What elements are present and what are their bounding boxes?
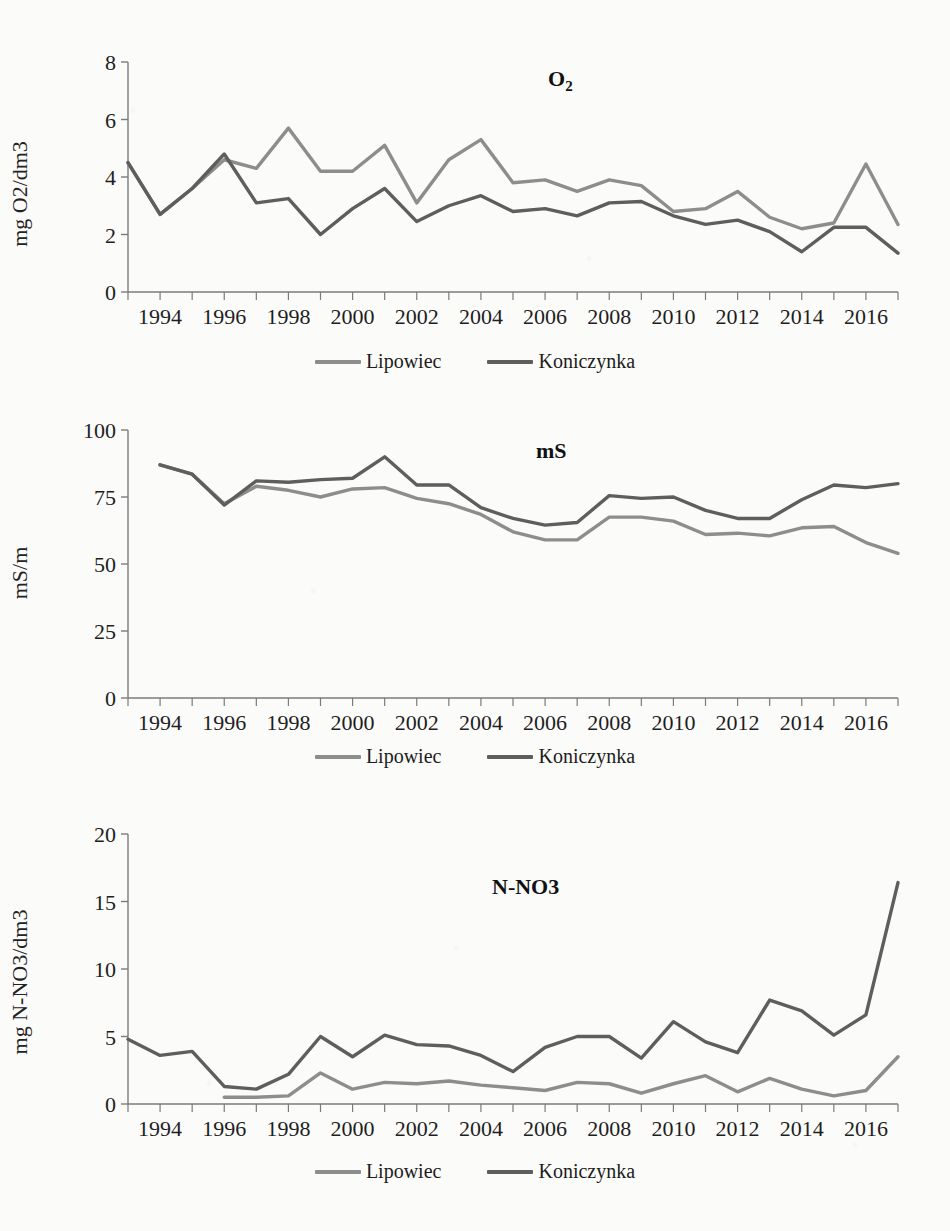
x-tick-label: 1994	[138, 1116, 182, 1141]
x-tick-label: 2010	[651, 710, 695, 735]
y-tick-label: 20	[94, 822, 116, 847]
x-tick-label: 2010	[651, 304, 695, 329]
legend-swatch-lipowiec	[315, 360, 361, 364]
y-tick-label: 6	[105, 108, 116, 133]
chart-panel-o2: mg O2/dm3 O2 024681994199619982000200220…	[0, 44, 950, 394]
x-tick-label: 2012	[716, 710, 760, 735]
x-tick-label: 2016	[844, 710, 888, 735]
legend-label-koniczynka: Koniczynka	[538, 745, 635, 768]
chart-panel-n-no3: mg N-NO3/dm3 N-NO3 051015201994199619982…	[0, 812, 950, 1212]
legend-item-lipowiec-n-no3: Lipowiec	[315, 1160, 442, 1183]
plot-area-o2: mg O2/dm3 O2 024681994199619982000200220…	[0, 44, 950, 344]
legend-label-koniczynka: Koniczynka	[538, 350, 635, 373]
chart-title-ms: mS	[536, 438, 567, 464]
x-tick-label: 1996	[202, 1116, 246, 1141]
plot-area-ms: mS/m mS 02550751001994199619982000200220…	[0, 408, 950, 738]
y-axis-label-text-ms: mS/m	[7, 547, 33, 600]
x-tick-label: 2014	[780, 1116, 824, 1141]
y-tick-label: 0	[105, 686, 116, 711]
x-tick-label: 2004	[459, 304, 503, 329]
chart-title-n-no3: N-NO3	[492, 874, 559, 900]
legend-item-koniczynka-o2: Koniczynka	[487, 350, 635, 373]
x-tick-label: 1998	[266, 304, 310, 329]
legend-label-koniczynka: Koniczynka	[538, 1160, 635, 1183]
series-line-koniczynka	[128, 154, 898, 253]
legend-swatch-koniczynka	[487, 360, 533, 364]
x-tick-label: 1998	[266, 1116, 310, 1141]
cut-off-figure-title	[0, 0, 950, 3]
legend-swatch-koniczynka	[487, 755, 533, 759]
y-tick-label: 0	[105, 280, 116, 305]
x-tick-label: 1994	[138, 710, 182, 735]
series-line-lipowiec	[128, 128, 898, 229]
x-tick-label: 1998	[266, 710, 310, 735]
y-tick-label: 100	[83, 418, 116, 443]
x-tick-label: 1996	[202, 304, 246, 329]
x-tick-label: 2000	[331, 1116, 375, 1141]
legend-label-lipowiec: Lipowiec	[366, 350, 442, 373]
x-tick-label: 2006	[523, 1116, 567, 1141]
x-tick-label: 1996	[202, 710, 246, 735]
y-axis-label-text-n-no3: mg N-NO3/dm3	[7, 910, 33, 1055]
chart-svg-n-no3: 0510152019941996199820002002200420062008…	[0, 812, 950, 1152]
chart-svg-o2: 0246819941996199820002002200420062008201…	[0, 44, 950, 344]
x-tick-label: 2014	[780, 710, 824, 735]
series-line-lipowiec	[224, 1057, 898, 1098]
x-tick-label: 2002	[395, 304, 439, 329]
chart-panel-ms: mS/m mS 02550751001994199619982000200220…	[0, 408, 950, 793]
x-tick-label: 2008	[587, 710, 631, 735]
y-axis-label-n-no3: mg N-NO3/dm3	[0, 812, 40, 1152]
x-tick-label: 2000	[331, 304, 375, 329]
chart-svg-ms: 0255075100199419961998200020022004200620…	[0, 408, 950, 738]
x-tick-label: 2016	[844, 1116, 888, 1141]
series-line-koniczynka	[128, 883, 898, 1090]
x-tick-label: 2008	[587, 304, 631, 329]
series-line-koniczynka	[160, 457, 898, 525]
y-tick-label: 10	[94, 957, 116, 982]
y-tick-label: 2	[105, 223, 116, 248]
y-tick-label: 8	[105, 50, 116, 75]
y-axis-label-text-o2: mg O2/dm3	[7, 141, 33, 247]
y-tick-label: 5	[105, 1025, 116, 1050]
x-tick-label: 2012	[716, 1116, 760, 1141]
x-tick-label: 2014	[780, 304, 824, 329]
legend-swatch-koniczynka	[487, 1170, 533, 1174]
x-tick-label: 2000	[331, 710, 375, 735]
legend-label-lipowiec: Lipowiec	[366, 745, 442, 768]
y-tick-label: 0	[105, 1092, 116, 1117]
y-tick-label: 25	[94, 619, 116, 644]
y-tick-label: 15	[94, 890, 116, 915]
y-tick-label: 75	[94, 485, 116, 510]
x-tick-label: 2004	[459, 710, 503, 735]
x-tick-label: 2006	[523, 304, 567, 329]
legend-o2: Lipowiec Koniczynka	[0, 350, 950, 373]
figure-page: mg O2/dm3 O2 024681994199619982000200220…	[0, 0, 950, 1231]
x-tick-label: 2012	[716, 304, 760, 329]
legend-item-koniczynka-n-no3: Koniczynka	[487, 1160, 635, 1183]
x-tick-label: 2010	[651, 1116, 695, 1141]
legend-item-lipowiec-ms: Lipowiec	[315, 745, 442, 768]
y-tick-label: 50	[94, 552, 116, 577]
plot-area-n-no3: mg N-NO3/dm3 N-NO3 051015201994199619982…	[0, 812, 950, 1152]
x-tick-label: 2004	[459, 1116, 503, 1141]
legend-item-koniczynka-ms: Koniczynka	[487, 745, 635, 768]
legend-swatch-lipowiec	[315, 755, 361, 759]
x-tick-label: 2002	[395, 1116, 439, 1141]
legend-swatch-lipowiec	[315, 1170, 361, 1174]
x-tick-label: 2002	[395, 710, 439, 735]
legend-label-lipowiec: Lipowiec	[366, 1160, 442, 1183]
x-tick-label: 1994	[138, 304, 182, 329]
y-tick-label: 4	[105, 165, 116, 190]
y-axis-label-o2: mg O2/dm3	[0, 44, 40, 344]
x-tick-label: 2006	[523, 710, 567, 735]
legend-item-lipowiec-o2: Lipowiec	[315, 350, 442, 373]
legend-ms: Lipowiec Koniczynka	[0, 745, 950, 768]
chart-title-o2: O2	[548, 66, 573, 95]
y-axis-label-ms: mS/m	[0, 408, 40, 738]
x-tick-label: 2008	[587, 1116, 631, 1141]
legend-n-no3: Lipowiec Koniczynka	[0, 1160, 950, 1183]
x-tick-label: 2016	[844, 304, 888, 329]
